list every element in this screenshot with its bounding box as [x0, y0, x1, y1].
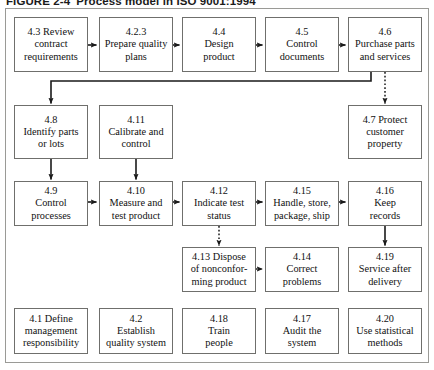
- process-flow-diagram: FIGURE 2-4Process model in ISO 9001:1994: [0, 0, 434, 370]
- process-box-4-20-label: 4.20 Use statistical methods: [351, 313, 419, 350]
- process-box-4-14[interactable]: 4.14 Correct problems: [265, 247, 339, 292]
- process-box-4-14-label: 4.14 Correct problems: [268, 251, 336, 288]
- process-box-4-4-label: 4.4 Design product: [185, 26, 253, 63]
- process-box-4-13-label: 4.13 Dispose of nonconfor- ming product: [185, 251, 253, 288]
- process-box-4-8[interactable]: 4.8 Identify parts or lots: [14, 105, 88, 159]
- figure-caption-number: FIGURE 2-4: [6, 0, 70, 7]
- process-box-4-12-label: 4.12 Indicate test status: [185, 185, 253, 222]
- process-box-4-2-label: 4.2 Establish quality system: [102, 313, 170, 350]
- process-box-4-12[interactable]: 4.12 Indicate test status: [182, 181, 256, 226]
- process-box-4-19-label: 4.19 Service after delivery: [351, 251, 419, 288]
- process-box-4-9-label: 4.9 Control processes: [17, 185, 85, 222]
- process-box-4-11-label: 4.11 Calibrate and control: [102, 114, 170, 151]
- process-box-4-11[interactable]: 4.11 Calibrate and control: [99, 105, 173, 159]
- process-box-4-2-3-label: 4.2.3 Prepare quality plans: [102, 26, 170, 63]
- figure-caption-text: Process model in ISO 9001:1994: [76, 0, 255, 7]
- process-box-4-6[interactable]: 4.6 Purchase parts and services: [348, 17, 422, 72]
- process-box-4-7-label: 4.7 Protect customer property: [351, 114, 419, 151]
- process-box-4-13[interactable]: 4.13 Dispose of nonconfor- ming product: [182, 247, 256, 292]
- process-box-4-10-label: 4.10 Measure and test product: [102, 185, 170, 222]
- process-box-4-20[interactable]: 4.20 Use statistical methods: [348, 308, 422, 354]
- process-box-4-6-label: 4.6 Purchase parts and services: [351, 26, 419, 63]
- process-box-4-3[interactable]: 4.3 Review contract requirements: [14, 17, 88, 72]
- process-box-4-10[interactable]: 4.10 Measure and test product: [99, 181, 173, 226]
- process-box-4-5[interactable]: 4.5 Control documents: [265, 17, 339, 72]
- process-box-4-5-label: 4.5 Control documents: [268, 26, 336, 63]
- process-box-4-1-label: 4.1 Define management responsibility: [17, 313, 85, 350]
- process-box-4-16[interactable]: 4.16 Keep records: [348, 181, 422, 226]
- process-box-4-9[interactable]: 4.9 Control processes: [14, 181, 88, 226]
- figure-caption: FIGURE 2-4Process model in ISO 9001:1994: [6, 0, 256, 7]
- process-box-4-15[interactable]: 4.15 Handle, store, package, ship: [265, 181, 339, 226]
- process-box-4-1[interactable]: 4.1 Define management responsibility: [14, 308, 88, 354]
- process-box-4-3-label: 4.3 Review contract requirements: [17, 26, 85, 63]
- process-box-4-17-label: 4.17 Audit the system: [268, 313, 336, 350]
- process-box-4-8-label: 4.8 Identify parts or lots: [17, 114, 85, 151]
- process-box-4-18-label: 4.18 Train people: [185, 313, 253, 350]
- process-box-4-17[interactable]: 4.17 Audit the system: [265, 308, 339, 354]
- process-box-4-19[interactable]: 4.19 Service after delivery: [348, 247, 422, 292]
- process-box-4-2[interactable]: 4.2 Establish quality system: [99, 308, 173, 354]
- process-box-4-7[interactable]: 4.7 Protect customer property: [348, 105, 422, 159]
- process-box-4-2-3[interactable]: 4.2.3 Prepare quality plans: [99, 17, 173, 72]
- process-box-4-18[interactable]: 4.18 Train people: [182, 308, 256, 354]
- process-box-4-4[interactable]: 4.4 Design product: [182, 17, 256, 72]
- process-box-4-15-label: 4.15 Handle, store, package, ship: [268, 185, 336, 222]
- process-box-4-16-label: 4.16 Keep records: [351, 185, 419, 222]
